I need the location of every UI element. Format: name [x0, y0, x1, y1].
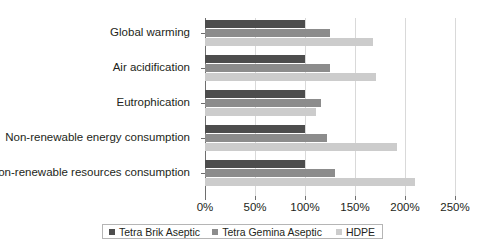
value-axis-tick-label: 250% [440, 201, 469, 214]
gridline [455, 18, 456, 196]
value-axis-tick-label: 0% [197, 201, 214, 214]
bar-group [205, 55, 455, 81]
legend-swatch-icon [109, 229, 115, 235]
bar [205, 38, 373, 46]
bar [205, 143, 397, 151]
chart-legend: Tetra Brik Aseptic Tetra Gemina Aseptic … [102, 224, 383, 239]
plot-area [205, 18, 455, 196]
legend-label: HDPE [346, 226, 375, 238]
value-axis-tick-label: 100% [290, 201, 319, 214]
value-axis-tick-label: 50% [243, 201, 266, 214]
value-axis-tick [455, 196, 456, 200]
bar [205, 169, 335, 177]
bar [205, 99, 321, 107]
value-axis-tick [255, 196, 256, 200]
category-label: Non-renewable resources consumption [0, 166, 190, 179]
bar [205, 108, 316, 116]
bar [205, 125, 305, 133]
value-axis-tick [405, 196, 406, 200]
legend-label: Tetra Brik Aseptic [119, 226, 200, 238]
value-axis-tick [205, 196, 206, 200]
value-axis-tick [305, 196, 306, 200]
bar [205, 64, 330, 72]
legend-item-tetra-brik-aseptic: Tetra Brik Aseptic [109, 226, 200, 238]
value-axis: 0%50%100%150%200%250% [205, 196, 457, 218]
legend-item-tetra-gemina-aseptic: Tetra Gemina Aseptic [212, 226, 322, 238]
legend-item-hdpe: HDPE [336, 226, 375, 238]
legend-swatch-icon [212, 229, 218, 235]
category-label: Non-renewable energy consumption [5, 131, 190, 144]
bar-group [205, 125, 455, 151]
category-label: Air acidification [113, 61, 190, 74]
legend-label: Tetra Gemina Aseptic [222, 226, 322, 238]
bar-group [205, 160, 455, 186]
bar [205, 73, 376, 81]
bar [205, 178, 415, 186]
bar-chart: Global warming Air acidification Eutroph… [0, 0, 485, 248]
bar-groups [205, 18, 455, 196]
bar-group [205, 90, 455, 116]
bar [205, 20, 305, 28]
bar [205, 160, 305, 168]
bar [205, 29, 330, 37]
bar [205, 55, 305, 63]
bar [205, 90, 305, 98]
category-axis-labels: Global warming Air acidification Eutroph… [0, 18, 200, 196]
legend-swatch-icon [336, 229, 342, 235]
value-axis-tick-label: 200% [390, 201, 419, 214]
category-label: Eutrophication [116, 96, 190, 109]
bar [205, 134, 327, 142]
value-axis-tick [355, 196, 356, 200]
value-axis-tick-label: 150% [340, 201, 369, 214]
category-label: Global warming [110, 26, 190, 39]
bar-group [205, 20, 455, 46]
